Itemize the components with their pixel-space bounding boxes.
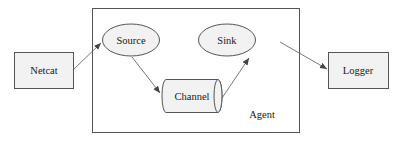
netcat-node: Netcat <box>15 53 74 89</box>
logger-label: Logger <box>343 65 374 76</box>
sink-label: Sink <box>217 35 237 46</box>
sink-node: Sink <box>199 24 256 56</box>
netcat-label: Netcat <box>30 65 57 76</box>
channel-node: Channel <box>162 80 222 113</box>
source-node: Source <box>103 24 160 56</box>
source-label: Source <box>116 35 145 46</box>
agent-label: Agent <box>249 109 275 120</box>
channel-label: Channel <box>175 91 210 102</box>
logger-node: Logger <box>329 53 389 89</box>
flume-architecture-diagram: Agent Netcat Source Sink Channel Logger <box>0 0 402 144</box>
